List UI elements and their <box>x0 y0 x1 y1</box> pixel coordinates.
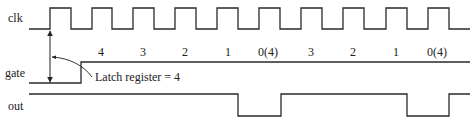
count-label: 0(4) <box>258 45 278 59</box>
counter-values: 43210(4)3210(4) <box>98 45 447 59</box>
count-label: 2 <box>350 45 356 59</box>
count-label: 0(4) <box>427 45 447 59</box>
latch-register-annotation: Latch register = 4 <box>95 70 180 84</box>
count-label: 2 <box>182 45 188 59</box>
latch-annotation-arrow <box>52 57 92 77</box>
gate-label: gate <box>5 66 25 80</box>
out-label: out <box>8 99 24 113</box>
clk-waveform <box>29 8 470 29</box>
count-label: 3 <box>308 45 314 59</box>
out-waveform <box>29 94 470 116</box>
timing-diagram: clk gate out Latch register = 4 43210(4)… <box>0 0 474 123</box>
count-label: 4 <box>98 45 104 59</box>
count-label: 1 <box>393 45 399 59</box>
clk-label: clk <box>8 11 23 25</box>
count-label: 3 <box>140 45 146 59</box>
count-label: 1 <box>225 45 231 59</box>
